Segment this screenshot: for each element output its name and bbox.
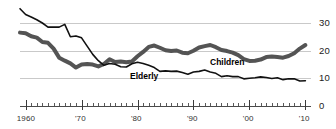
x-tick-label-2010: '10 [299,115,310,123]
series-label-children: Children [210,58,244,67]
x-tick-label-1960: 1960 [17,115,35,123]
chart-plot-area [0,0,336,129]
x-tick-label-1990: '90 [187,115,198,123]
y-tick-label-30: 30 [319,18,330,28]
x-tick-label-1980: '80 [131,115,142,123]
series-label-elderly: Elderly [130,72,158,81]
y-tick-label-10: 10 [319,73,330,83]
x-tick-label-1970: '70 [75,115,86,123]
x-tick-label-2000: '00 [243,115,254,123]
y-tick-label-0: 0 [319,101,324,111]
x-axis [20,100,311,110]
y-tick-label-20: 20 [319,46,330,56]
data-series [20,9,305,81]
series-line-elderly [20,9,305,81]
series-line-children [20,33,305,68]
poverty-rate-line-chart: 3020100 1960'70'80'90'00'10 ElderlyChild… [0,0,336,129]
